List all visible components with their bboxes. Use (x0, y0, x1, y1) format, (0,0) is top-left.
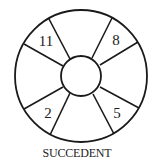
segment-label-top-left: 11 (39, 33, 53, 49)
segment-label-bottom-left: 2 (44, 105, 52, 121)
segment-label-top-right: 8 (112, 32, 120, 48)
spoke-top-right (92, 18, 112, 58)
segment-label-bottom-right: 5 (113, 105, 121, 121)
spoke-bottom-right (93, 94, 114, 134)
succedent-wheel-diagram: 11 8 2 5 (0, 0, 154, 165)
inner-circle (61, 56, 101, 96)
diagram-caption: SUCCEDENT (0, 146, 154, 161)
spoke-bottom-left (50, 93, 70, 135)
